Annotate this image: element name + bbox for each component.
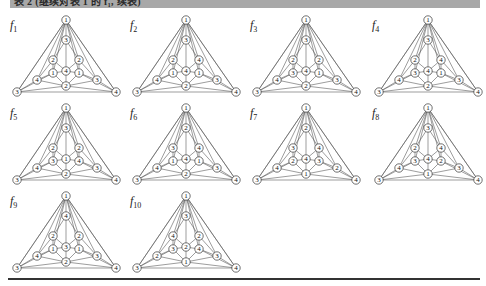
svg-text:3: 3	[215, 164, 219, 172]
graph-edge	[53, 108, 66, 161]
graph-node-outer-left: 4	[153, 76, 161, 85]
graph-node-inner-left: 1	[169, 157, 177, 166]
graph-diagram: 132414143234	[120, 10, 242, 98]
graph-node-bottom-right: 4	[232, 264, 240, 273]
svg-text:4: 4	[354, 176, 358, 184]
svg-text:3: 3	[95, 252, 99, 260]
graph-edge	[415, 20, 428, 73]
graph-node-bottom-right: 4	[352, 176, 360, 185]
svg-text:4: 4	[77, 157, 81, 165]
graph-node-bottom-right: 4	[112, 264, 120, 273]
svg-text:4: 4	[184, 155, 188, 163]
svg-text:2: 2	[155, 252, 159, 260]
graph-node-outer-left: 4	[33, 164, 41, 173]
graph-edge	[66, 108, 79, 161]
graph-node-bottom-right: 4	[232, 88, 240, 97]
graph-edge	[66, 262, 116, 268]
graph-node-inner-top: 2	[182, 124, 190, 133]
graph-edge	[186, 108, 199, 161]
graph-node-bottom-left: 3	[375, 176, 383, 185]
graph-node-bottom-left: 3	[133, 176, 141, 185]
svg-text:3: 3	[184, 212, 188, 220]
svg-text:1: 1	[426, 104, 430, 112]
graph-edge	[186, 262, 236, 268]
graph-node-top: 1	[424, 16, 432, 24]
svg-text:1: 1	[197, 69, 201, 77]
svg-text:3: 3	[64, 36, 68, 44]
graph-node-center: 4	[302, 155, 310, 164]
graph-edge	[186, 256, 217, 262]
svg-text:2: 2	[184, 243, 188, 251]
svg-text:2: 2	[439, 157, 443, 165]
svg-text:4: 4	[114, 264, 118, 272]
svg-text:2: 2	[291, 56, 295, 64]
graph-node-bottom-left: 3	[13, 88, 21, 97]
graph-node-inner-right: 3	[315, 157, 323, 166]
graph-node-inner-right: 1	[315, 69, 323, 78]
figure-f4: 132434143234f4	[362, 10, 484, 98]
svg-text:3: 3	[426, 36, 430, 44]
graph-node-outer-left: 4	[273, 76, 281, 85]
svg-text:3: 3	[255, 88, 259, 96]
svg-text:1: 1	[426, 170, 430, 178]
graph-node-mid-right: 4	[195, 144, 203, 153]
graph-edge	[17, 86, 66, 92]
figure-f2: 132414143234f2	[120, 10, 242, 98]
figure-f3: 132234143234f3	[240, 10, 362, 98]
svg-text:2: 2	[77, 232, 81, 240]
graph-node-inner-right: 2	[437, 157, 445, 166]
svg-text:4: 4	[114, 176, 118, 184]
graph-edge	[186, 20, 199, 73]
graph-edge	[186, 196, 199, 249]
svg-text:1: 1	[184, 16, 188, 24]
graph-node-mid-left: 2	[49, 56, 57, 65]
graph-node-center: 4	[62, 67, 70, 76]
graph-node-inner-left: 3	[411, 69, 419, 78]
graph-node-outer-left: 4	[153, 164, 161, 173]
graph-edge	[66, 174, 116, 180]
svg-text:3: 3	[377, 176, 381, 184]
svg-text:3: 3	[95, 164, 99, 172]
svg-text:4: 4	[397, 76, 401, 84]
graph-node-top: 1	[182, 104, 190, 113]
graph-node-bottom-center: 1	[302, 170, 310, 179]
svg-text:1: 1	[51, 245, 55, 253]
svg-text:1: 1	[64, 104, 68, 112]
svg-text:2: 2	[184, 124, 188, 132]
graph-edge	[66, 256, 97, 262]
figure-label: f6	[130, 106, 137, 122]
graph-node-bottom-center: 1	[424, 170, 432, 179]
svg-text:3: 3	[15, 264, 19, 272]
svg-text:3: 3	[215, 76, 219, 84]
graph-node-outer-left: 4	[33, 76, 41, 85]
graph-node-bottom-left: 3	[253, 88, 261, 97]
graph-node-mid-right: 4	[437, 144, 445, 153]
graph-edge	[428, 108, 441, 161]
graph-node-mid-right: 2	[315, 56, 323, 65]
svg-text:3: 3	[15, 176, 19, 184]
graph-node-mid-right: 4	[437, 56, 445, 65]
graph-edge	[428, 174, 478, 180]
graph-node-inner-top: 3	[182, 36, 190, 45]
graph-node-bottom-left: 3	[13, 264, 21, 273]
graph-edge	[379, 86, 428, 92]
svg-text:4: 4	[35, 252, 39, 260]
svg-text:2: 2	[304, 124, 308, 132]
svg-text:3: 3	[171, 144, 175, 152]
figure-label: f2	[130, 18, 137, 34]
graph-node-inner-top: 2	[302, 124, 310, 133]
graph-node-inner-right: 1	[75, 69, 83, 78]
svg-text:1: 1	[184, 104, 188, 112]
svg-text:3: 3	[291, 144, 295, 152]
graph-node-inner-left: 3	[49, 157, 57, 166]
graph-node-bottom-center: 2	[62, 82, 70, 91]
svg-text:2: 2	[51, 232, 55, 240]
svg-text:2: 2	[64, 170, 68, 178]
graph-node-inner-left: 3	[289, 69, 297, 78]
svg-text:2: 2	[51, 144, 55, 152]
svg-text:4: 4	[397, 164, 401, 172]
figure-label: f7	[250, 106, 257, 122]
graph-node-bottom-center: 1	[182, 258, 190, 267]
graph-node-outer-right: 3	[93, 252, 101, 260]
figure-label: f9	[10, 194, 17, 210]
